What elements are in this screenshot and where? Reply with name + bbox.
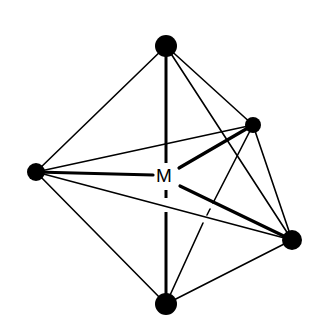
octahedron-diagram: M <box>0 0 318 322</box>
edge-left-right-back <box>36 125 253 172</box>
atom-bottom <box>155 293 177 315</box>
edge-top-left <box>36 46 166 172</box>
edge-right-front-bottom <box>166 240 292 304</box>
metal-center-label: M <box>155 166 173 186</box>
octahedron-svg <box>0 0 318 322</box>
atom-right-front <box>282 230 302 250</box>
edge-left-bottom <box>36 172 166 304</box>
atom-top <box>155 35 177 57</box>
edge-right-back-bottom-c <box>166 223 203 304</box>
bond-left-m <box>36 172 153 175</box>
edge-right-back-bottom-b <box>207 209 210 215</box>
atom-left <box>27 163 45 181</box>
atom-right-back <box>245 117 261 133</box>
